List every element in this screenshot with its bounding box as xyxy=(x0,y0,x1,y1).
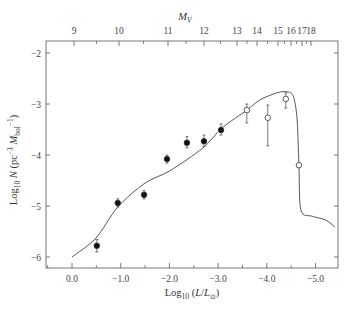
luminosity-function-chart: 0.0−1.0−2.0−3.0−4.0−5.0 −2−3−4−5−6 91011… xyxy=(0,0,353,311)
top-tick-label: 10 xyxy=(114,26,124,36)
top-tick-label: 15 xyxy=(273,26,283,36)
y-axis-ticks: −2−3−4−5−6 xyxy=(31,49,338,263)
x-tick-label: −4.0 xyxy=(258,274,275,284)
marker xyxy=(265,115,271,121)
x-axis-ticks: 0.0−1.0−2.0−3.0−4.0−5.0 xyxy=(48,263,325,284)
y-tick-label: −4 xyxy=(31,151,41,161)
top-tick-label: 16 xyxy=(286,26,296,36)
y-tick-label: −6 xyxy=(31,253,41,263)
y-tick-label: −3 xyxy=(31,100,41,110)
y-tick-label: −2 xyxy=(31,49,41,59)
marker xyxy=(164,156,170,162)
filled-data-point xyxy=(184,137,190,148)
top-tick-label: 18 xyxy=(306,26,316,36)
top-axis-ticks: 9101112131415161718 xyxy=(72,26,316,46)
marker xyxy=(296,162,302,168)
y-axis-title: Log10 N (pc−3 Mbol−1) xyxy=(6,114,22,205)
model-curve-path xyxy=(72,92,335,257)
top-tick-label: 14 xyxy=(252,26,262,36)
top-tick-label: 12 xyxy=(199,26,209,36)
x-tick-label: −3.0 xyxy=(209,274,226,284)
y-tick-label: −5 xyxy=(31,202,41,212)
top-axis-title: MV xyxy=(177,11,193,25)
open-data-point xyxy=(283,93,289,108)
marker xyxy=(141,192,147,198)
filled-data-point xyxy=(141,191,147,199)
marker xyxy=(283,96,289,102)
x-tick-label: 0.0 xyxy=(66,274,78,284)
data-points xyxy=(94,93,302,252)
marker xyxy=(244,107,250,113)
top-tick-label: 13 xyxy=(232,26,242,36)
x-tick-label: −1.0 xyxy=(112,274,129,284)
filled-data-point xyxy=(94,240,100,252)
top-tick-label: 11 xyxy=(163,26,172,36)
marker xyxy=(94,243,100,249)
x-tick-label: −2.0 xyxy=(161,274,178,284)
model-curve xyxy=(72,92,335,257)
x-axis-title: Log10 (L/L⊙) xyxy=(165,287,220,301)
plot-border xyxy=(46,41,338,268)
marker xyxy=(115,200,121,206)
marker xyxy=(218,127,224,133)
open-data-point xyxy=(265,105,271,146)
plot-frame xyxy=(46,41,338,268)
open-data-point xyxy=(244,104,250,123)
top-tick-label: 9 xyxy=(72,26,77,36)
filled-data-point xyxy=(115,199,121,207)
filled-data-point xyxy=(218,124,224,135)
marker xyxy=(201,138,207,144)
marker xyxy=(184,140,190,146)
filled-data-point xyxy=(164,155,170,163)
open-data-point xyxy=(296,162,302,168)
x-tick-label: −5.0 xyxy=(307,274,324,284)
